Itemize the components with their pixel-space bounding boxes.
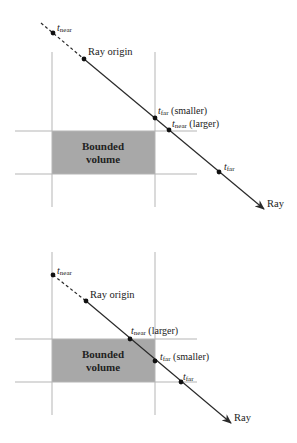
- ray-origin-label: Ray origin: [90, 289, 135, 300]
- t-far-smaller-label: tfar (smaller): [160, 351, 209, 363]
- t-near-larger-label: tnear (larger): [172, 118, 219, 130]
- ray-backward-dashed: [53, 275, 86, 301]
- volume-label-line1: Bounded: [82, 140, 124, 152]
- t-near-point: [51, 273, 56, 278]
- ray-box-intersection-figure: Bounded volume tnear Ray origin tfar (sm…: [0, 0, 297, 443]
- ray-label: Ray: [267, 198, 285, 209]
- t-far-point: [217, 170, 222, 175]
- t-far-smaller-point: [153, 116, 158, 121]
- t-near-label: tnear: [57, 22, 72, 34]
- diagram-miss: Bounded volume tnear Ray origin tfar (sm…: [15, 22, 285, 209]
- t-far-label: tfar: [224, 161, 235, 173]
- ray-origin-label: Ray origin: [88, 46, 133, 57]
- t-near-larger-point: [167, 128, 172, 133]
- ray-label: Ray: [234, 412, 252, 423]
- volume-label-line1: Bounded: [82, 348, 124, 360]
- t-far-smaller-point: [153, 359, 158, 364]
- t-near-larger-label: tnear (larger): [131, 325, 178, 337]
- ray-origin-point: [82, 57, 87, 62]
- diagram-hit: Bounded volume tnear Ray origin tnear (l…: [15, 252, 252, 423]
- t-near-point: [51, 31, 56, 36]
- t-near-larger-point: [128, 337, 133, 342]
- t-far-smaller-label: tfar (smaller): [158, 105, 207, 117]
- volume-label-line2: volume: [86, 153, 120, 165]
- t-near-label: tnear: [57, 265, 72, 277]
- volume-label-line2: volume: [86, 361, 120, 373]
- ray-origin-point: [84, 299, 89, 304]
- t-far-label: tfar: [183, 371, 194, 383]
